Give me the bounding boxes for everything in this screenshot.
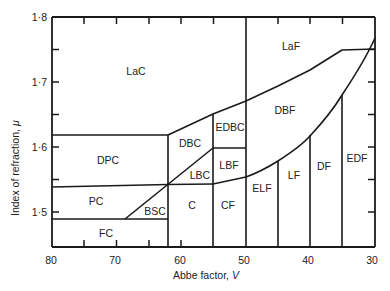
label-edf: EDF [347, 152, 368, 164]
label-cf: CF [221, 199, 235, 211]
label-fc: FC [99, 227, 113, 239]
label-bsc: BSC [144, 205, 166, 217]
pc-top-boundary [52, 185, 168, 188]
y-tick-1-6: 1·6 [32, 141, 47, 153]
label-laf: LaF [282, 40, 300, 52]
label-dbf: DBF [275, 104, 296, 116]
y-tick-labels: 1·8 1·7 1·6 1·5 [32, 11, 47, 218]
label-dbc: DBC [179, 137, 202, 149]
label-dpc: DPC [97, 154, 120, 166]
region-boundaries [52, 17, 375, 247]
label-lbf: LBF [219, 159, 238, 171]
y-axis-title: Index of refraction, μ [9, 120, 21, 216]
label-lbc: LBC [190, 169, 211, 181]
label-edbc: EDBC [215, 121, 245, 133]
lbc-bottom-boundary [168, 184, 213, 185]
x-tick-labels: 80 70 60 50 40 30 [45, 254, 378, 266]
label-lf: LF [288, 169, 300, 181]
x-tick-70: 70 [109, 254, 121, 266]
label-df: DF [317, 160, 331, 172]
region-labels: LaC LaF DBF DBC EDBC DPC LBC LBF PC BSC … [89, 40, 368, 239]
y-tick-1-7: 1·7 [32, 76, 47, 88]
x-tick-40: 40 [302, 254, 314, 266]
x-tick-30: 30 [366, 254, 378, 266]
label-lac: LaC [126, 65, 146, 77]
y-tick-1-5: 1·5 [32, 206, 47, 218]
label-c: C [188, 199, 196, 211]
glass-map-diagram: LaC LaF DBF DBC EDBC DPC LBC LBF PC BSC … [0, 0, 390, 291]
x-tick-80: 80 [45, 254, 57, 266]
y-tick-1-8: 1·8 [32, 11, 47, 23]
x-tick-60: 60 [174, 254, 186, 266]
label-pc: PC [89, 195, 104, 207]
x-tick-50: 50 [238, 254, 250, 266]
label-elf: ELF [252, 182, 271, 194]
x-axis-title: Abbe factor, V [173, 269, 240, 281]
